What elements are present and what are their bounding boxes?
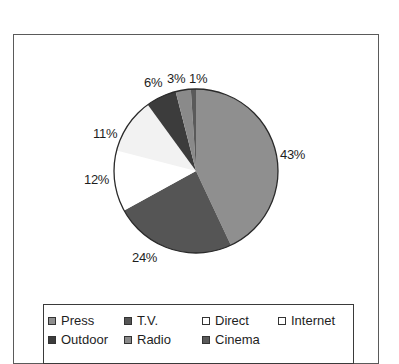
legend-label: T.V. bbox=[137, 313, 158, 328]
legend-swatch-icon bbox=[48, 336, 56, 344]
legend-item-direct: Direct bbox=[202, 313, 249, 328]
legend-swatch-icon bbox=[278, 317, 286, 325]
slice-label-tv: 24% bbox=[132, 250, 157, 265]
legend-item-radio: Radio bbox=[124, 332, 171, 347]
legend: Press T.V. Direct Internet Outdoor Radio… bbox=[43, 304, 354, 364]
legend-swatch-icon bbox=[48, 317, 56, 325]
legend-label: Radio bbox=[137, 332, 171, 347]
slice-label-radio: 3% bbox=[167, 71, 185, 86]
legend-label: Cinema bbox=[215, 332, 260, 347]
legend-item-outdoor: Outdoor bbox=[48, 332, 108, 347]
legend-item-press: Press bbox=[48, 313, 94, 328]
legend-item-cinema: Cinema bbox=[202, 332, 260, 347]
legend-label: Internet bbox=[291, 313, 335, 328]
slice-label-press: 43% bbox=[280, 147, 305, 162]
legend-item-tv: T.V. bbox=[124, 313, 158, 328]
legend-swatch-icon bbox=[202, 317, 210, 325]
slice-label-cinema: 1% bbox=[189, 71, 207, 86]
legend-label: Direct bbox=[215, 313, 249, 328]
legend-label: Press bbox=[61, 313, 94, 328]
legend-swatch-icon bbox=[202, 336, 210, 344]
legend-label: Outdoor bbox=[61, 332, 108, 347]
slice-label-direct: 12% bbox=[84, 172, 109, 187]
legend-swatch-icon bbox=[124, 317, 132, 325]
slice-label-internet: 11% bbox=[93, 126, 117, 141]
legend-swatch-icon bbox=[124, 336, 132, 344]
slice-label-outdoor: 6% bbox=[144, 75, 162, 90]
legend-item-internet: Internet bbox=[278, 313, 335, 328]
